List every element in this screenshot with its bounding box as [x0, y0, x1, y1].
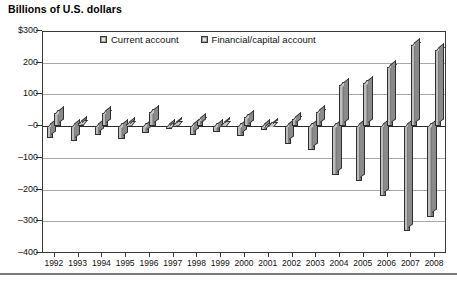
bar-current-account	[356, 126, 362, 181]
bar-shade	[169, 127, 171, 128]
bar-financial-capital-account	[221, 124, 227, 126]
bar-shade	[295, 120, 297, 125]
bar-current-account	[190, 126, 196, 135]
bar-current-account	[427, 126, 433, 216]
bar-shade	[367, 84, 369, 125]
bar-current-account	[237, 126, 243, 136]
bar-shade	[129, 125, 131, 126]
bar-current-account	[71, 126, 77, 141]
bar-shade	[383, 127, 385, 195]
bar-shade	[105, 114, 107, 125]
bar-financial-capital-account	[197, 120, 203, 126]
bar-shade	[153, 113, 155, 125]
bottom-divider	[0, 273, 457, 275]
bar-current-account	[308, 126, 314, 150]
bar-shade	[312, 127, 314, 149]
bar-financial-capital-account	[363, 83, 369, 126]
bar-financial-capital-account	[126, 124, 132, 127]
bar-shade	[319, 113, 321, 125]
bar-shade	[146, 127, 148, 132]
bar-shade	[217, 127, 219, 131]
bar-shade	[343, 86, 345, 125]
bar-current-account	[285, 126, 291, 143]
bar-shade	[264, 127, 266, 129]
bar-financial-capital-account	[339, 85, 345, 126]
bar-shade	[74, 127, 76, 140]
bar-financial-capital-account	[173, 124, 179, 126]
bar-shade	[288, 127, 290, 142]
bar-shade	[390, 68, 392, 125]
bar-financial-capital-account	[316, 112, 322, 126]
bar-shade	[248, 118, 250, 126]
bar-shade	[98, 127, 100, 134]
bar-shade	[50, 127, 52, 137]
bar-financial-capital-account	[268, 125, 274, 127]
bar-shade	[58, 114, 60, 125]
bar-shade	[122, 127, 124, 138]
bars-layer	[0, 0, 457, 281]
bar-financial-capital-account	[244, 117, 250, 127]
chart-root: Billions of U.S. dollars $300200100–0–10…	[0, 0, 457, 281]
bar-current-account	[118, 126, 124, 139]
bar-current-account	[380, 126, 386, 196]
bar-current-account	[261, 126, 267, 130]
bar-current-account	[332, 126, 338, 175]
bar-financial-capital-account	[387, 67, 393, 126]
bar-financial-capital-account	[54, 113, 60, 126]
bar-current-account	[404, 126, 410, 231]
bar-current-account	[95, 126, 101, 135]
bar-shade	[431, 127, 433, 215]
bar-shade	[438, 51, 440, 125]
bar-financial-capital-account	[435, 50, 441, 126]
bar-current-account	[213, 126, 219, 132]
bar-shade	[336, 127, 338, 174]
bar-current-account	[142, 126, 148, 133]
bar-financial-capital-account	[149, 112, 155, 126]
bar-shade	[407, 127, 409, 230]
bar-current-account	[166, 126, 172, 129]
bar-financial-capital-account	[292, 119, 298, 126]
bar-shade	[200, 121, 202, 125]
bar-shade	[193, 127, 195, 134]
bar-shade	[414, 46, 416, 125]
bar-financial-capital-account	[102, 113, 108, 126]
bar-financial-capital-account	[78, 123, 84, 126]
bar-shade	[81, 124, 83, 125]
bar-current-account	[47, 126, 53, 138]
bar-shade	[241, 127, 243, 135]
bar-shade	[359, 127, 361, 180]
bar-financial-capital-account	[411, 45, 417, 126]
